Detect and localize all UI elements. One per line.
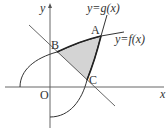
point-B-label: B [51, 38, 59, 52]
y-axis-label: y [39, 1, 46, 15]
graph-diagram: y x O A B C y=g(x) y=f(x) [0, 0, 167, 128]
curve-f-label: y=f(x) [114, 32, 145, 46]
y-axis-arrow-icon [48, 3, 52, 8]
x-axis-label: x [159, 87, 166, 101]
point-C-label: C [89, 73, 97, 87]
point-A-label: A [91, 23, 100, 37]
origin-label: O [40, 88, 49, 102]
curve-g-label: y=g(x) [86, 1, 120, 15]
